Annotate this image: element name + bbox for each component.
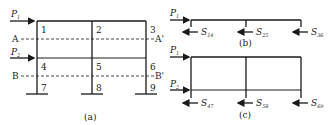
section-label-b: B — [12, 71, 19, 81]
node-label-5: 5 — [96, 62, 102, 72]
load-label-p2: P2 — [10, 47, 20, 58]
load-label-p1: P1 — [169, 45, 179, 56]
node-label-1: 1 — [41, 25, 47, 35]
node-label-4: 4 — [41, 62, 47, 72]
node-label-8: 8 — [96, 83, 102, 93]
section-label-a-prime: A' — [154, 34, 164, 44]
shear-label-s47: S47 — [201, 98, 214, 109]
shear-label-s14: S14 — [201, 27, 214, 38]
load-label-p2: P2 — [169, 79, 179, 90]
shear-label-s58: S58 — [256, 98, 269, 109]
shear-label-s25: S25 — [256, 27, 269, 38]
node-label-9: 9 — [150, 83, 156, 93]
caption-a: (a) — [84, 112, 96, 122]
figure-b — [170, 20, 308, 32]
shear-label-s36: S36 — [311, 27, 324, 38]
caption-b: (b) — [239, 38, 252, 48]
caption-c: (c) — [239, 110, 251, 120]
figure-c — [170, 57, 308, 103]
figure-a — [10, 21, 157, 94]
frame-diagram: P1 P2 1 2 3 4 5 6 7 8 9 A A' B B' (a) P1… — [0, 0, 336, 125]
load-label-p1: P1 — [169, 8, 179, 19]
node-label-7: 7 — [41, 83, 47, 93]
section-label-a: A — [11, 34, 19, 44]
load-label-p1: P1 — [10, 9, 20, 20]
node-label-2: 2 — [96, 25, 102, 35]
shear-label-s69: S69 — [311, 98, 324, 109]
section-label-b-prime: B' — [155, 71, 164, 81]
